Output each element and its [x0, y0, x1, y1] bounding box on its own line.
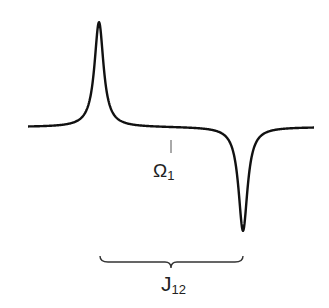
omega-subscript: 1: [167, 168, 174, 183]
spectrum-diagram: [0, 0, 329, 308]
coupling-label: J12: [161, 272, 186, 297]
spectrum-trace: [28, 22, 314, 231]
omega-symbol: Ω: [153, 160, 167, 181]
omega-label: Ω1: [153, 160, 174, 183]
coupling-brace: [100, 256, 243, 268]
coupling-symbol: J: [161, 272, 172, 295]
coupling-subscript: 12: [172, 282, 186, 297]
